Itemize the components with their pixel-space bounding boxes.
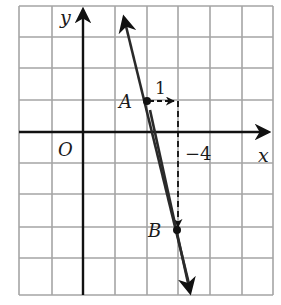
y-axis-label: y [59,6,71,28]
line-ab-lower-arrow [150,110,190,292]
run-label: 1 [155,78,166,98]
tick-label: −4 [185,143,212,164]
point-a-label: A [117,91,132,112]
point-b-label: B [147,220,161,241]
x-axis-label: x [258,144,269,166]
point-b [173,226,181,234]
point-a [143,97,151,105]
coordinate-diagram: y x O 1 −4 A B [0,0,281,305]
origin-label: O [58,139,73,160]
